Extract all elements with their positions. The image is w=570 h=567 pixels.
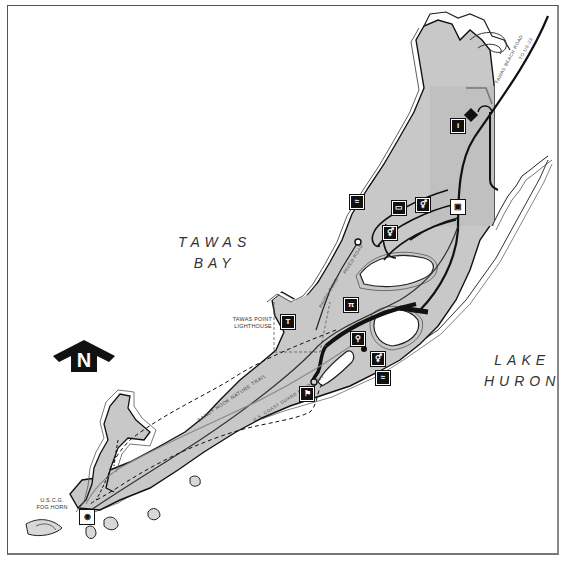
lighthouse-icon[interactable]: T bbox=[281, 315, 295, 329]
camper-icon[interactable]: ▭ bbox=[392, 201, 406, 215]
hiking-icon[interactable]: ⚑ bbox=[300, 387, 314, 401]
fog-horn-label: U.S.C.G. FOG HORN bbox=[34, 497, 70, 511]
tawas-bay-label-line2: BAY bbox=[178, 253, 251, 274]
swimming-icon[interactable]: ≈ bbox=[350, 195, 364, 209]
lake-huron-label-line1: LAKE bbox=[484, 350, 560, 371]
lighthouse-label: TAWAS POINT LIGHTHOUSE bbox=[226, 316, 272, 330]
lake-huron-shore bbox=[492, 156, 552, 230]
restroom-icon[interactable]: ⚥ bbox=[371, 352, 385, 366]
picnic-icon[interactable]: π bbox=[344, 298, 358, 312]
fog-horn-label-line2: FOG HORN bbox=[34, 504, 70, 511]
restroom-icon[interactable]: ⚥ bbox=[383, 226, 397, 240]
contact-station-icon[interactable]: i bbox=[451, 119, 465, 133]
map-graphic bbox=[0, 0, 570, 567]
tawas-bay-label: TAWAS BAY bbox=[178, 232, 251, 274]
lake-huron-label: LAKE HURON bbox=[484, 350, 560, 392]
lighthouse-label-line2: LIGHTHOUSE bbox=[226, 323, 272, 330]
restroom-icon[interactable]: ⚥ bbox=[416, 198, 430, 212]
north-arrow: N bbox=[53, 338, 115, 374]
marker-dot bbox=[361, 346, 367, 352]
fog-horn-label-line1: U.S.C.G. bbox=[34, 497, 70, 504]
tawas-bay-label-line1: TAWAS bbox=[178, 232, 251, 253]
north-arrow-letter: N bbox=[72, 348, 96, 372]
store-icon[interactable]: ▣ bbox=[451, 200, 465, 214]
lighthouse-label-line1: TAWAS POINT bbox=[226, 316, 272, 323]
peninsula bbox=[26, 12, 552, 539]
lake-huron-label-line2: HURON bbox=[484, 371, 560, 392]
playground-icon[interactable]: ⚲ bbox=[351, 332, 365, 346]
fog-horn-icon[interactable]: ◉ bbox=[80, 510, 94, 524]
swimming-icon[interactable]: ≈ bbox=[376, 371, 390, 385]
